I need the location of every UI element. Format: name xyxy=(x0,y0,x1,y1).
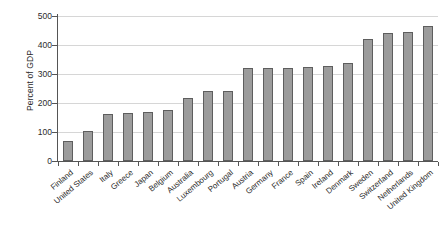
bar xyxy=(223,91,233,161)
y-axis-tick-mark xyxy=(52,103,57,104)
x-axis-tick-mark xyxy=(78,162,79,166)
y-axis-tick-label: 500 xyxy=(26,11,52,21)
x-axis-tick-mark xyxy=(338,162,339,166)
x-axis-tick-mark xyxy=(98,162,99,166)
y-axis-tick-label: 200 xyxy=(26,98,52,108)
x-axis-tick-mark xyxy=(58,162,59,166)
y-axis-tick-mark xyxy=(52,161,57,162)
bar xyxy=(103,114,113,161)
bar xyxy=(343,63,353,161)
x-axis-tick-mark xyxy=(318,162,319,166)
bar xyxy=(363,39,373,161)
x-axis-tick-mark xyxy=(178,162,179,166)
bar xyxy=(123,113,133,161)
x-axis-tick-mark xyxy=(418,162,419,166)
x-axis-tick-mark xyxy=(278,162,279,166)
x-axis-tick-mark xyxy=(298,162,299,166)
x-axis-tick-mark xyxy=(198,162,199,166)
gridline xyxy=(58,16,438,17)
x-axis-tick-mark xyxy=(358,162,359,166)
x-axis-tick-mark xyxy=(218,162,219,166)
x-axis-tick-mark xyxy=(118,162,119,166)
y-axis-tick-label: 300 xyxy=(26,69,52,79)
bar-chart: Percent of GDP 0100200300400500 FinlandU… xyxy=(0,0,442,231)
y-axis-tick-mark xyxy=(52,74,57,75)
bar xyxy=(203,91,213,161)
x-axis-tick-mark xyxy=(238,162,239,166)
x-axis-tick-mark xyxy=(398,162,399,166)
bar xyxy=(183,98,193,161)
bar xyxy=(323,66,333,161)
x-axis-tick-mark xyxy=(258,162,259,166)
bar xyxy=(283,68,293,161)
plot-area xyxy=(58,16,438,161)
gridline xyxy=(58,45,438,46)
y-axis-tick-mark xyxy=(52,16,57,17)
bar xyxy=(243,68,253,161)
bar xyxy=(83,131,93,161)
y-axis-tick-labels: 0100200300400500 xyxy=(26,10,52,165)
bar xyxy=(163,110,173,161)
x-axis-tick-mark xyxy=(378,162,379,166)
x-axis-tick-mark xyxy=(138,162,139,166)
y-axis-tick-mark xyxy=(52,45,57,46)
bar xyxy=(383,33,393,161)
bar xyxy=(263,68,273,161)
x-axis-tick-mark xyxy=(158,162,159,166)
y-axis-tick-label: 100 xyxy=(26,127,52,137)
bar xyxy=(423,26,433,161)
x-axis-tick-mark xyxy=(438,162,439,166)
y-axis-tick-mark xyxy=(52,132,57,133)
gridline xyxy=(58,161,438,162)
y-axis-tick-label: 400 xyxy=(26,40,52,50)
bar xyxy=(303,67,313,161)
bar xyxy=(403,32,413,161)
bar xyxy=(143,112,153,161)
bar xyxy=(63,141,73,161)
y-axis-tick-label: 0 xyxy=(26,156,52,166)
